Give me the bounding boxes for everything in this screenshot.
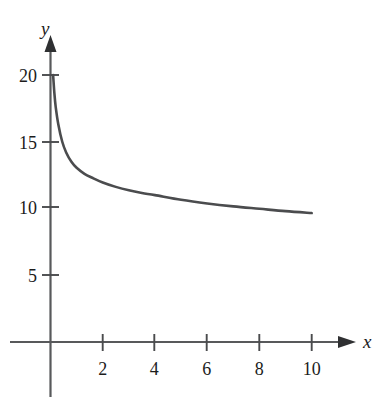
y-tick-label-5: 5 — [28, 266, 37, 286]
y-tick-label-20: 20 — [19, 66, 37, 86]
y-axis-label: y — [39, 18, 50, 39]
y-tick-label-10: 10 — [19, 198, 37, 218]
chart-figure: 20 15 10 5 2 4 6 8 10 y x — [0, 0, 382, 397]
x-tick-label-4: 4 — [150, 359, 159, 379]
x-tick-label-10: 10 — [303, 359, 321, 379]
x-axis-arrowhead — [338, 336, 356, 348]
data-curve — [53, 75, 312, 213]
line-chart-svg: 20 15 10 5 2 4 6 8 10 y x — [0, 0, 382, 397]
x-tick-label-2: 2 — [98, 359, 107, 379]
x-axis-label: x — [362, 331, 372, 352]
x-tick-label-8: 8 — [255, 359, 264, 379]
y-tick-label-15: 15 — [19, 133, 37, 153]
x-tick-label-6: 6 — [202, 359, 211, 379]
